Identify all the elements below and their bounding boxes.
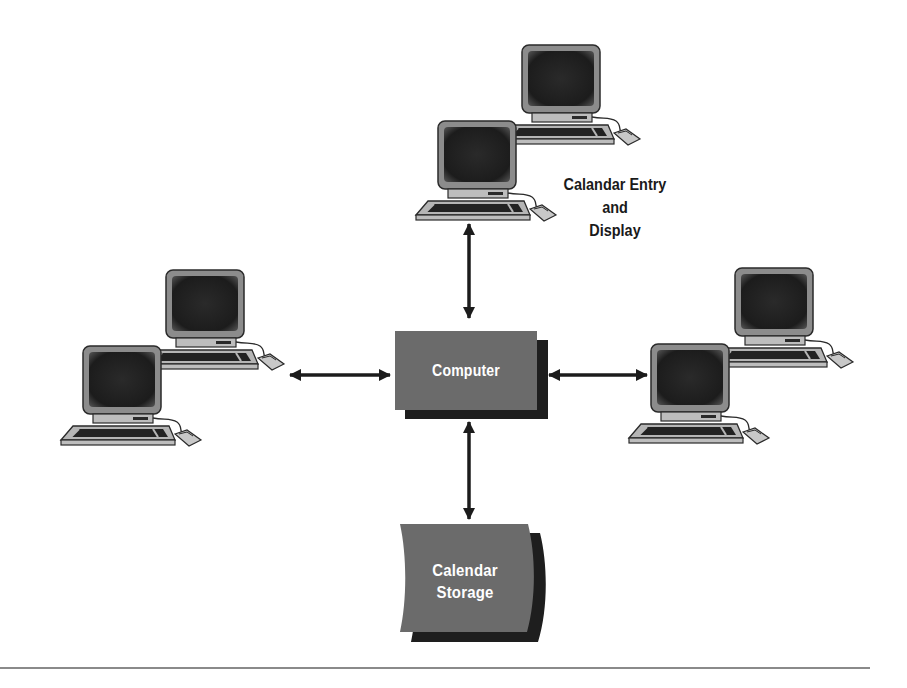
workstation-icon	[713, 268, 853, 368]
storage-label-line1: Calendar	[408, 560, 522, 582]
caption-line2: and	[551, 196, 679, 219]
top-group-caption: Calandar Entry and Display	[551, 173, 679, 242]
workstation-icon	[144, 270, 284, 370]
computer-label: Computer	[404, 361, 529, 381]
caption-line3: Display	[551, 219, 679, 242]
workstation-icon	[500, 45, 640, 145]
workstation-group-left	[61, 270, 284, 446]
workstation-group-right	[629, 268, 853, 444]
caption-line1: Calandar Entry	[551, 173, 679, 196]
storage-label-line2: Storage	[408, 582, 522, 604]
horizontal-rule	[0, 667, 870, 669]
storage-label: Calendar Storage	[408, 560, 522, 604]
